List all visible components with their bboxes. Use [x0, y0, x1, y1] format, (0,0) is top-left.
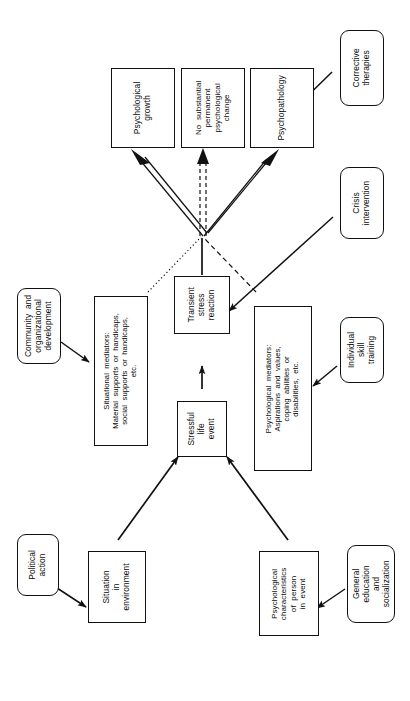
node-transient-stress-reaction-label: Transient stress reaction [187, 287, 217, 323]
node-situational-mediators-label: Situational mediators: Material supports… [103, 313, 139, 429]
node-psychological-characteristics[interactable]: Psychological characteristics of person … [259, 551, 319, 636]
node-community-development-label: Community and organizational development [24, 295, 54, 357]
node-general-education-label: General education and socialization [351, 561, 391, 608]
node-transient-stress-reaction[interactable]: Transient stress reaction [174, 276, 230, 334]
node-individual-skill-training-label: Individual skill training [347, 332, 377, 368]
node-psychological-growth[interactable]: Psychological growth [111, 68, 175, 148]
node-stressful-life-event[interactable]: Stressful life event [177, 401, 227, 457]
node-stressful-life-event-label: Stressful life event [187, 412, 217, 445]
node-crisis-intervention[interactable]: Crisis intervention [340, 167, 384, 239]
node-situation-in-environment-label: Situation in environment [102, 563, 132, 610]
node-situational-mediators[interactable]: Situational mediators: Material supports… [94, 296, 148, 446]
edge-situation-to-event [118, 457, 178, 540]
node-psychological-mediators[interactable]: Psychological mediators: Aspirations and… [254, 306, 312, 471]
node-corrective-therapies-label: Corrective therapies [352, 48, 372, 87]
edge-political-to-situation [57, 588, 86, 607]
node-psychological-growth-label: Psychological growth [133, 82, 153, 135]
node-political-action-label: Political action [28, 550, 48, 580]
node-no-substantial-change[interactable]: No substantial permanent psychological c… [181, 68, 245, 148]
node-situation-in-environment[interactable]: Situation in environment [88, 551, 146, 623]
node-corrective-therapies[interactable]: Corrective therapies [340, 30, 384, 106]
edge-hub-to-growth [131, 149, 207, 236]
flowchart-figure: Psychological growth No substantial perm… [0, 0, 410, 701]
node-political-action[interactable]: Political action [17, 534, 59, 596]
edge-hub-to-psychopathology [204, 149, 279, 236]
node-psychopathology-label: Psychopathology [277, 75, 287, 140]
node-psychopathology[interactable]: Psychopathology [250, 68, 314, 148]
node-no-substantial-change-label: No substantial permanent psychological c… [194, 81, 232, 135]
edge-skill-to-psychmediators [313, 366, 337, 386]
node-general-education[interactable]: General education and socialization [347, 545, 395, 623]
node-psychological-characteristics-label: Psychological characteristics of person … [270, 567, 308, 620]
node-crisis-intervention-label: Crisis intervention [352, 181, 372, 226]
node-individual-skill-training[interactable]: Individual skill training [340, 317, 384, 383]
node-community-development[interactable]: Community and organizational development [17, 288, 61, 364]
edge-crisis-to-reaction [229, 217, 333, 311]
node-psychological-mediators-label: Psychological mediators: Aspirations and… [265, 344, 301, 433]
edge-community-to-situational [61, 342, 89, 362]
edge-education-to-characteristics [317, 589, 345, 608]
